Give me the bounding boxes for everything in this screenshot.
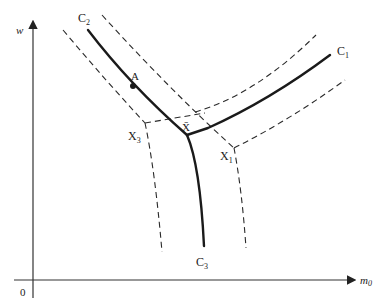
origin-label: 0 <box>20 286 26 298</box>
curve-c1 <box>187 55 330 135</box>
c3-label: C3 <box>196 255 208 271</box>
point-a-marker <box>130 83 136 89</box>
x-axis-label: m0 <box>360 274 372 288</box>
c1-label: C1 <box>337 44 349 60</box>
diagram-canvas: w m0 0 A X̄ C2 C1 C3 X3 X1 <box>0 0 385 308</box>
point-xbar-label: X̄ <box>182 121 190 133</box>
boundary-c1-lower <box>234 80 345 148</box>
curve-c3 <box>187 135 204 246</box>
diagram-svg: w m0 0 A X̄ C2 C1 C3 X3 X1 <box>0 0 385 308</box>
point-a-label: A <box>131 70 139 82</box>
boundary-top-horizontal <box>145 113 205 123</box>
y-axis-label: w <box>16 24 24 36</box>
boundary-c1-upper <box>195 35 316 112</box>
x3-label: X3 <box>128 129 141 145</box>
boundary-x1-vertical <box>234 148 246 248</box>
boundary-x3-vertical <box>145 123 162 252</box>
x1-label: X1 <box>220 149 233 165</box>
boundary-c2-inner <box>102 15 234 148</box>
c2-label: C2 <box>78 11 90 27</box>
curve-c2 <box>88 30 187 135</box>
